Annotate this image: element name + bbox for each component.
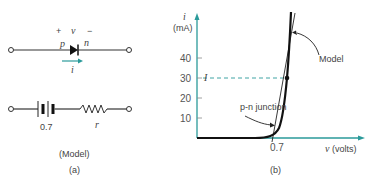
voltage-symbol: v bbox=[71, 25, 76, 36]
current-arrowhead bbox=[78, 59, 83, 64]
terminal-right bbox=[127, 48, 132, 53]
y-ticks: 10203040 bbox=[180, 53, 202, 124]
p-label: p bbox=[59, 38, 65, 49]
y-axis-arrowhead bbox=[195, 13, 200, 20]
resistor-icon bbox=[80, 105, 107, 113]
junction-pointer-arrowhead bbox=[270, 123, 275, 128]
y-axis-unit: (mA) bbox=[173, 23, 193, 33]
model-line bbox=[272, 13, 295, 142]
junction-label: p-n junction bbox=[240, 102, 287, 112]
terminal-left bbox=[9, 107, 14, 112]
y-axis-symbol: i bbox=[183, 11, 186, 22]
iv-chart: i (mA) 10203040 I Model p-n junction 0.7… bbox=[173, 11, 365, 175]
junction-pointer bbox=[245, 116, 271, 125]
caption-b: (b) bbox=[270, 165, 281, 175]
current-symbol: i bbox=[71, 64, 74, 75]
battery-plate bbox=[42, 104, 45, 114]
battery-value: 0.7 bbox=[40, 122, 53, 132]
current-marker: I bbox=[203, 72, 208, 83]
pn-junction-curve bbox=[197, 12, 291, 138]
model-label: Model bbox=[319, 54, 344, 64]
y-tick-label: 20 bbox=[180, 93, 192, 104]
x-axis-label: v (volts) bbox=[325, 143, 356, 154]
terminal-right bbox=[127, 107, 132, 112]
resistor-label: r bbox=[95, 119, 99, 130]
operating-point bbox=[285, 76, 290, 81]
polarity-minus: − bbox=[87, 26, 92, 36]
polarity-plus: + bbox=[56, 26, 61, 36]
battery-plate bbox=[52, 104, 55, 114]
y-tick-label: 30 bbox=[180, 73, 192, 84]
model-pointer bbox=[297, 33, 319, 55]
diagram-canvas: + v − p n i 0.7 r (Model) (a) i (mA) 102 bbox=[0, 0, 368, 178]
x-axis-arrowhead bbox=[358, 136, 365, 141]
diode-circuit: + v − p n i bbox=[9, 25, 132, 75]
model-pointer-arrowhead bbox=[292, 31, 297, 36]
terminal-left bbox=[9, 48, 14, 53]
y-tick-label: 10 bbox=[180, 113, 192, 124]
x-tick-label: 0.7 bbox=[270, 142, 284, 153]
y-tick-label: 40 bbox=[180, 53, 192, 64]
model-circuit: 0.7 r (Model) (a) bbox=[9, 101, 132, 175]
diode-icon bbox=[70, 45, 78, 55]
caption-a: (a) bbox=[69, 165, 80, 175]
model-caption: (Model) bbox=[59, 149, 90, 159]
n-label: n bbox=[84, 37, 89, 48]
